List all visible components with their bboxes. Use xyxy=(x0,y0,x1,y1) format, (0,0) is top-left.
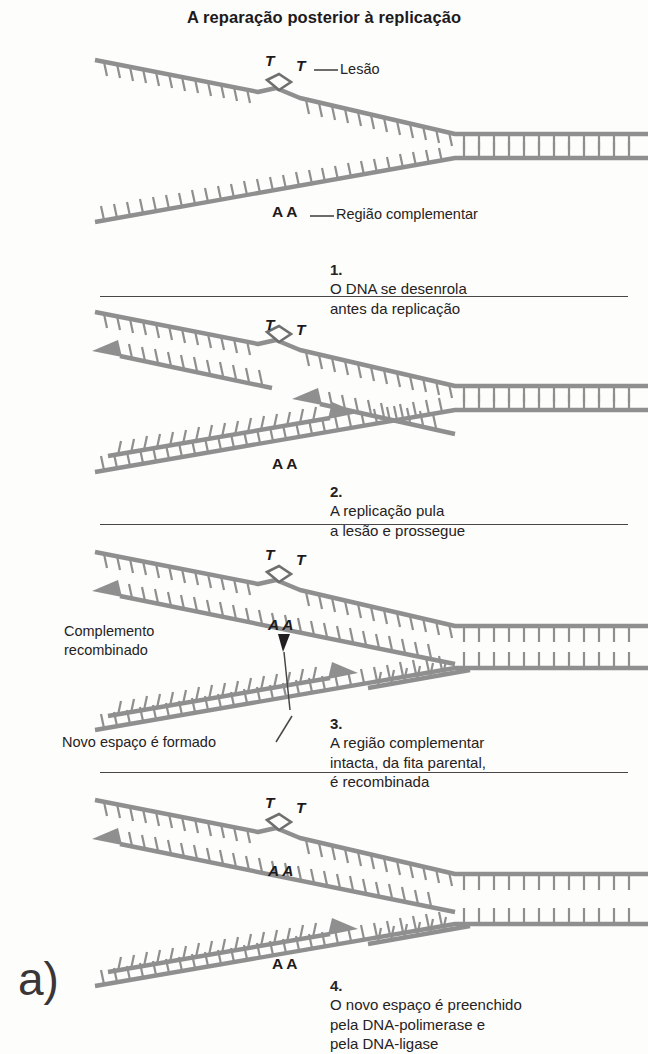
new-strand-lower-fragment xyxy=(368,917,470,944)
panel-3-new-gap-label: Novo espaço é formado xyxy=(62,733,216,751)
panel-1-thymine-left: T xyxy=(265,52,274,70)
new-strand-upper xyxy=(92,340,272,388)
panel-4-adenine-pair: A A xyxy=(268,862,294,880)
synthesis-direction-arrow xyxy=(328,662,358,679)
figure-panel-label: a) xyxy=(18,952,59,1006)
panel-3-adenine-pair: A A xyxy=(268,616,294,634)
synthesis-direction-arrow xyxy=(328,918,358,935)
panel-2-thymine-left: T xyxy=(265,316,274,334)
panel-1-step-number: 1. xyxy=(330,261,343,278)
synthesis-direction-arrow xyxy=(92,580,122,597)
panel-4-caption: 4. O novo espaço é preenchido pela DNA-p… xyxy=(330,956,522,1054)
panel-1-thymine-right: T xyxy=(296,57,305,75)
synthesis-direction-arrow xyxy=(92,828,122,845)
panel-4-caption-text: O novo espaço é preenchido pela DNA-poli… xyxy=(330,996,522,1052)
panel-2-adenine-pair: A A xyxy=(272,455,298,473)
panel-3-recombined-complement-label: Complemento recombinado xyxy=(64,622,154,660)
panel-1-adenine-pair: A A xyxy=(272,203,298,221)
panel-2-step-number: 2. xyxy=(330,483,343,500)
parental-strand-top xyxy=(95,312,648,402)
parental-strand-top xyxy=(95,800,648,890)
panel-divider-3 xyxy=(100,772,628,773)
panel-4-thymine-right: T xyxy=(296,799,305,817)
panel-3-step-number: 3. xyxy=(330,715,343,732)
panel-4-step-number: 4. xyxy=(330,977,343,994)
parental-strand-top xyxy=(95,552,648,642)
parental-strand-bottom xyxy=(95,394,648,472)
panel-4-adenine-pair-lower: A A xyxy=(272,955,298,973)
figure-title: A reparação posterior à replicação xyxy=(0,8,648,27)
recombination-pointer-arrow xyxy=(278,634,290,652)
panel-4-thymine-left: T xyxy=(265,794,274,812)
panel-4-diagram xyxy=(0,778,648,1028)
panel-1-complementary-region-label: Região complementar xyxy=(336,205,478,223)
panel-2-diagram xyxy=(0,300,648,515)
synthesis-direction-arrow xyxy=(292,388,322,405)
panel-2-caption: 2. A replicação pula a lesão e prossegue xyxy=(330,462,465,540)
panel-divider-1 xyxy=(100,296,628,297)
panel-1-diagram xyxy=(0,32,648,282)
panel-2-thymine-right: T xyxy=(296,321,305,339)
panel-3-thymine-right: T xyxy=(296,551,305,569)
panel-3-caption: 3. A região complementar intacta, da fit… xyxy=(330,694,486,792)
new-gap-leader-line xyxy=(276,716,292,742)
panel-3-thymine-left: T xyxy=(265,546,274,564)
panel-1-lesion-label: Lesão xyxy=(340,60,380,78)
panel-divider-2 xyxy=(100,524,628,525)
synthesis-direction-arrow xyxy=(92,340,122,357)
